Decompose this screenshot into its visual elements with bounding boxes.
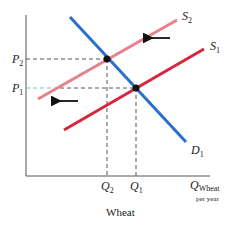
p1-label: P1 <box>11 81 23 97</box>
q1-label: Q1 <box>130 179 143 195</box>
p2-label: P2 <box>11 52 23 68</box>
s2-label: S2 <box>182 9 192 25</box>
equilibrium-point-e1 <box>133 85 140 92</box>
q2-label: Q2 <box>101 179 114 195</box>
demand-curve-d1 <box>70 17 186 142</box>
quantity-axis-unit: per year <box>196 195 219 203</box>
s1-label: S1 <box>210 39 220 55</box>
quantity-axis-label: QWheat <box>190 178 220 193</box>
d1-label: D1 <box>190 143 204 159</box>
equilibrium-point-e2 <box>104 56 111 63</box>
supply-demand-chart: P2 P1 Q2 Q1 QWheat per year S2 S1 D1 Whe… <box>0 0 229 225</box>
chart-caption: Wheat <box>106 206 135 218</box>
